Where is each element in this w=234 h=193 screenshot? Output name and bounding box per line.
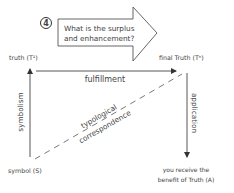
step-badge: 4	[41, 18, 52, 29]
question-line-1: What is the surplus	[64, 24, 135, 33]
node-benefit-line-1: you receive the	[163, 166, 210, 174]
typology-diagram: 4 What is the surplus and enhancement? t…	[0, 0, 234, 193]
application-label: application	[190, 93, 199, 133]
fulfillment-label: fulfillment	[85, 75, 126, 84]
node-benefit-line-2: benefit of Truth (A)	[158, 176, 215, 183]
node-final-truth: final Truth (Tⁿ)	[159, 54, 204, 61]
question-arrow: What is the surplus and enhancement?	[58, 7, 157, 61]
typological-dashed-line	[35, 74, 182, 159]
node-symbol: symbol (S)	[8, 167, 42, 175]
node-truth: truth (T¹)	[9, 54, 38, 61]
question-line-2: and enhancement?	[64, 34, 134, 43]
symbolism-label: symbolism	[16, 92, 25, 131]
step-badge-number: 4	[43, 19, 49, 28]
